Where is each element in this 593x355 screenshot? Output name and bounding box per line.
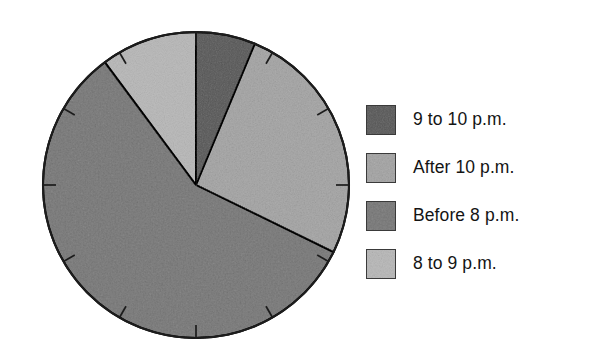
legend-item-label: 8 to 9 p.m. <box>413 255 497 273</box>
chart-legend: 9 to 10 p.m.After 10 p.m.Before 8 p.m.8 … <box>366 96 586 288</box>
legend-swatch-icon <box>366 201 396 231</box>
legend-swatch-icon <box>366 105 396 135</box>
legend-item[interactable]: 8 to 9 p.m. <box>366 240 586 288</box>
legend-swatch-icon <box>366 249 396 279</box>
legend-item[interactable]: Before 8 p.m. <box>366 192 586 240</box>
pie-chart-area <box>0 0 360 355</box>
legend-item-label: Before 8 p.m. <box>413 207 519 225</box>
pie-slices <box>43 32 349 338</box>
pie-chart-figure: 9 to 10 p.m.After 10 p.m.Before 8 p.m.8 … <box>0 0 593 355</box>
pie-chart-svg <box>0 0 360 355</box>
legend-swatch-icon <box>366 153 396 183</box>
legend-item-label: 9 to 10 p.m. <box>413 111 507 129</box>
legend-item[interactable]: After 10 p.m. <box>366 144 586 192</box>
legend-item[interactable]: 9 to 10 p.m. <box>366 96 586 144</box>
legend-item-label: After 10 p.m. <box>413 159 514 177</box>
